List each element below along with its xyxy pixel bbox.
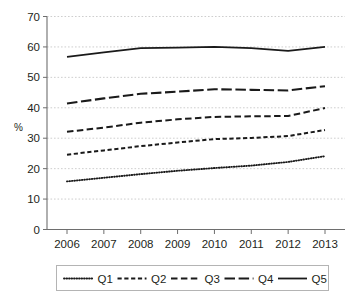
x-tick-label: 2006 xyxy=(54,238,80,250)
legend-label-q4: Q4 xyxy=(258,273,274,285)
legend-label-q2: Q2 xyxy=(151,273,166,285)
y-tick-label: 20 xyxy=(27,163,40,175)
legend-label-q3: Q3 xyxy=(205,273,220,285)
y-tick-label: 70 xyxy=(27,11,40,23)
legend-label-q1: Q1 xyxy=(98,273,113,285)
x-tick-label: 2010 xyxy=(202,238,228,250)
chart-canvas: 010203040506070 200620072008200920102011… xyxy=(0,0,353,301)
line-chart: 010203040506070 200620072008200920102011… xyxy=(0,0,353,301)
y-tick-label: 30 xyxy=(27,132,40,144)
x-tick-label: 2013 xyxy=(312,238,338,250)
x-tick-label: 2008 xyxy=(128,238,154,250)
y-tick-label: 60 xyxy=(27,41,40,53)
y-tick-label: 50 xyxy=(27,71,40,83)
x-tick-label: 2007 xyxy=(91,238,117,250)
x-tick-label: 2009 xyxy=(165,238,191,250)
legend-label-q5: Q5 xyxy=(312,273,327,285)
y-tick-label: 40 xyxy=(27,102,40,114)
chart-background xyxy=(0,0,353,301)
y-tick-label: 10 xyxy=(27,193,40,205)
x-tick-label: 2011 xyxy=(239,238,264,250)
x-tick-label: 2012 xyxy=(275,238,301,250)
y-tick-label: 0 xyxy=(34,224,40,236)
y-axis-title: % xyxy=(14,122,23,133)
